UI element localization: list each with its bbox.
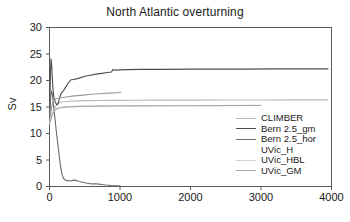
legend-item-label: Bern 2.5_hor xyxy=(261,134,316,145)
legend-line-swatch xyxy=(236,118,256,119)
chart-legend: CLIMBERBern 2.5_gmBern 2.5_horUVic_HUVic… xyxy=(236,113,316,176)
legend-line-swatch xyxy=(236,128,256,129)
plot-area xyxy=(0,0,350,222)
legend-item-label: CLIMBER xyxy=(261,113,303,124)
series-line xyxy=(50,105,262,123)
legend-item-label: UVic_HBL xyxy=(261,155,305,166)
legend-line-swatch xyxy=(236,139,256,140)
series-line xyxy=(50,106,262,124)
legend-item[interactable]: CLIMBER xyxy=(236,113,316,124)
legend-item[interactable]: UVic_GM xyxy=(236,166,316,177)
chart-figure: North Atlantic overturning Sv 0510152025… xyxy=(0,0,350,222)
legend-item-label: UVic_GM xyxy=(261,166,301,177)
legend-item[interactable]: Bern 2.5_hor xyxy=(236,134,316,145)
legend-line-swatch xyxy=(236,160,256,161)
legend-line-swatch xyxy=(236,149,256,150)
legend-line-swatch xyxy=(236,170,256,171)
legend-item[interactable]: UVic_HBL xyxy=(236,155,316,166)
